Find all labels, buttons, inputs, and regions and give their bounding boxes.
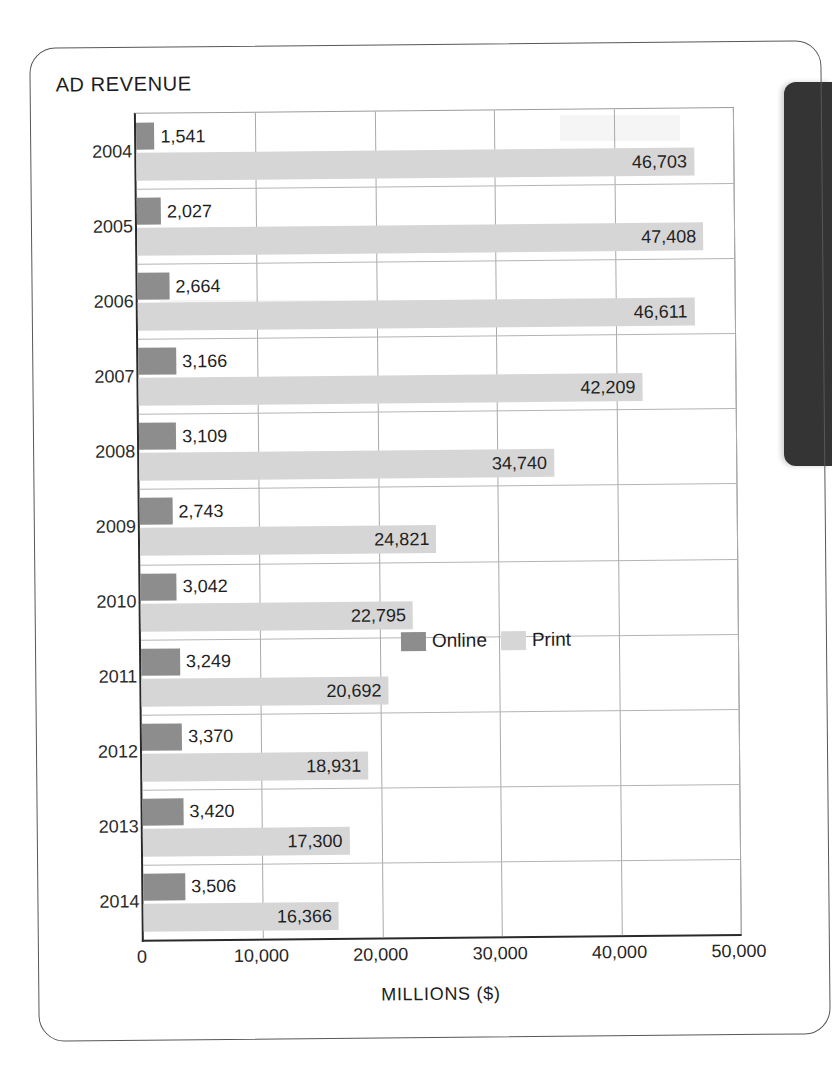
bar-online-2012[interactable]: 3,370 xyxy=(142,723,182,750)
figure-content: AD REVENUE 20041,54146,70320052,02747,40… xyxy=(29,40,828,1040)
plot-area: 20041,54146,70320052,02747,40820062,6644… xyxy=(134,107,742,942)
bar-print-2012[interactable]: 18,931 xyxy=(142,751,368,781)
chart-row-2012: 20123,37018,931 xyxy=(142,709,740,790)
bar-value-online-2014: 3,506 xyxy=(191,877,236,895)
bar-print-2007[interactable]: 42,209 xyxy=(138,373,642,406)
bar-value-online-2010: 3,042 xyxy=(183,577,228,595)
bar-value-print-2012: 18,931 xyxy=(306,756,361,775)
bar-online-2008[interactable]: 3,109 xyxy=(139,423,176,450)
bar-value-online-2004: 1,541 xyxy=(160,127,205,145)
bar-online-2005[interactable]: 2,027 xyxy=(137,198,161,225)
y-axis-label-2010: 2010 xyxy=(96,591,136,612)
x-tick-20000: 20,000 xyxy=(353,944,408,966)
bar-online-2007[interactable]: 3,166 xyxy=(138,348,176,375)
bar-print-2013[interactable]: 17,300 xyxy=(143,827,350,857)
chart-row-2007: 20073,16642,209 xyxy=(138,333,736,414)
bar-print-2014[interactable]: 16,366 xyxy=(143,902,339,932)
y-axis-label-2012: 2012 xyxy=(98,742,138,763)
x-tick-0: 0 xyxy=(137,947,147,968)
y-axis-label-2005: 2005 xyxy=(93,216,133,237)
chart-row-2004: 20041,54146,703 xyxy=(136,108,734,189)
x-tick-50000: 50,000 xyxy=(711,941,766,963)
bar-value-online-2011: 3,249 xyxy=(186,652,231,670)
bar-online-2013[interactable]: 3,420 xyxy=(142,798,183,825)
bar-value-online-2009: 2,743 xyxy=(178,502,223,520)
y-axis-label-2013: 2013 xyxy=(99,817,139,838)
bar-value-print-2014: 16,366 xyxy=(277,907,332,926)
bar-value-print-2007: 42,209 xyxy=(580,378,635,397)
chart-row-2010: 20103,04222,795 xyxy=(140,559,738,640)
bar-online-2009[interactable]: 2,743 xyxy=(140,498,173,525)
chart-row-2005: 20052,02747,408 xyxy=(137,183,735,264)
bar-value-print-2013: 17,300 xyxy=(287,832,342,851)
chart-row-2008: 20083,10934,740 xyxy=(139,408,737,489)
x-axis-tick-labels: 010,00020,00030,00040,00050,000 xyxy=(142,941,739,973)
y-axis-label-2004: 2004 xyxy=(92,141,132,162)
bar-print-2011[interactable]: 20,692 xyxy=(141,676,388,706)
bar-print-2005[interactable]: 47,408 xyxy=(137,222,703,255)
bar-value-online-2013: 3,420 xyxy=(189,802,234,820)
bar-print-2008[interactable]: 34,740 xyxy=(139,449,554,481)
legend-item-print[interactable]: Print xyxy=(501,629,571,652)
bar-online-2014[interactable]: 3,506 xyxy=(143,873,185,900)
bar-online-2004[interactable]: 1,541 xyxy=(136,123,155,150)
y-axis-label-2014: 2014 xyxy=(99,892,139,913)
chart-legend: Online Print xyxy=(401,629,571,653)
bar-value-print-2005: 47,408 xyxy=(641,228,696,247)
bar-value-online-2007: 3,166 xyxy=(182,352,227,370)
bar-value-print-2004: 46,703 xyxy=(632,153,687,172)
y-axis-label-2011: 2011 xyxy=(98,666,137,687)
legend-swatch-online-icon xyxy=(401,632,426,651)
bar-online-2006[interactable]: 2,664 xyxy=(137,273,169,300)
bar-value-online-2006: 2,664 xyxy=(175,277,220,295)
bar-value-print-2011: 20,692 xyxy=(326,681,381,700)
bar-print-2006[interactable]: 46,611 xyxy=(138,298,695,331)
y-axis-label-2008: 2008 xyxy=(95,441,135,462)
x-tick-30000: 30,000 xyxy=(473,943,528,965)
legend-label-online: Online xyxy=(432,629,487,652)
y-axis-label-2009: 2009 xyxy=(96,516,136,537)
bar-value-online-2008: 3,109 xyxy=(182,427,227,445)
chart-row-2013: 20133,42017,300 xyxy=(142,784,740,865)
legend-label-print: Print xyxy=(532,629,571,651)
bar-online-2011[interactable]: 3,249 xyxy=(141,648,180,675)
bar-print-2010[interactable]: 22,795 xyxy=(141,601,413,632)
bar-value-online-2012: 3,370 xyxy=(188,727,233,745)
bar-value-print-2008: 34,740 xyxy=(492,454,547,473)
x-tick-10000: 10,000 xyxy=(234,945,289,967)
y-axis-label-2007: 2007 xyxy=(94,366,134,387)
y-axis-label-2006: 2006 xyxy=(94,291,134,312)
bar-value-online-2005: 2,027 xyxy=(167,202,212,220)
bar-value-print-2009: 24,821 xyxy=(374,530,429,549)
bar-value-print-2010: 22,795 xyxy=(351,606,406,625)
x-tick-40000: 40,000 xyxy=(592,942,647,964)
chart-row-2006: 20062,66446,611 xyxy=(137,258,735,339)
bar-print-2004[interactable]: 46,703 xyxy=(136,147,694,180)
chart-title: AD REVENUE xyxy=(56,72,192,96)
bar-print-2009[interactable]: 24,821 xyxy=(140,525,437,556)
chart-row-2014: 20143,50616,366 xyxy=(143,859,741,940)
bar-online-2010[interactable]: 3,042 xyxy=(140,573,177,600)
x-axis-title: MILLIONS ($) xyxy=(142,981,739,1008)
legend-item-online[interactable]: Online xyxy=(401,629,487,652)
legend-swatch-print-icon xyxy=(501,631,526,650)
bar-value-print-2006: 46,611 xyxy=(634,303,688,322)
chart-row-2009: 20092,74324,821 xyxy=(139,483,737,564)
